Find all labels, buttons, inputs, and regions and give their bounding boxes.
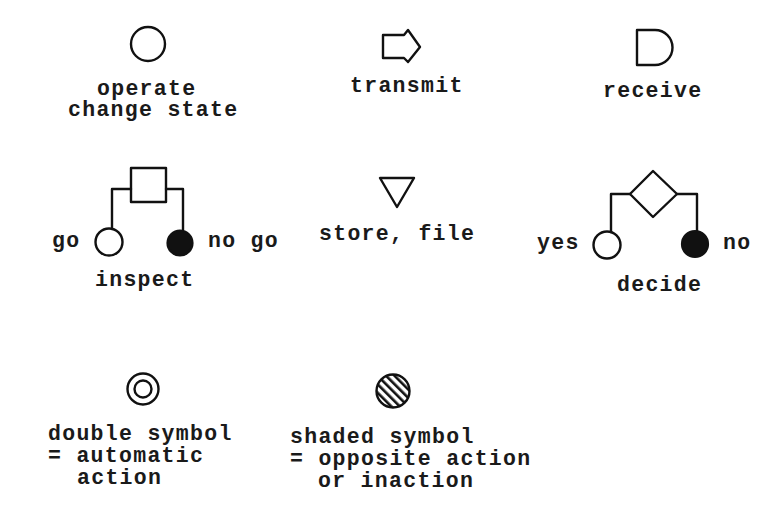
hatched-circle-icon <box>377 375 410 408</box>
decide-label: decide <box>617 273 702 297</box>
automatic-label: = automatic <box>48 444 204 468</box>
square-icon <box>131 168 166 202</box>
double-circle-outer-icon <box>128 374 159 405</box>
decide-symbol-group: yes no decide <box>537 171 751 297</box>
branch-line-left <box>112 189 131 229</box>
transmit-label: transmit <box>350 74 464 98</box>
change-state-label: change state <box>68 98 238 122</box>
shaded-symbol-label: shaded symbol <box>290 425 475 449</box>
no-go-label: no go <box>208 229 279 253</box>
receive-symbol-group: receive <box>603 30 702 103</box>
store-symbol-group: store, file <box>319 178 475 246</box>
double-circle-inner-icon <box>135 381 152 398</box>
operate-symbol-group: operate change state <box>68 27 238 122</box>
pentagon-arrow-icon <box>383 30 420 62</box>
shaded-symbol-group: shaded symbol = opposite action or inact… <box>290 375 531 494</box>
action-label: action <box>77 466 162 490</box>
d-shape-icon <box>637 30 673 65</box>
receive-label: receive <box>603 79 702 103</box>
open-circle-yes-icon <box>594 232 621 259</box>
inspect-symbol-group: go no go inspect <box>52 168 279 292</box>
go-label: go <box>52 229 80 253</box>
open-circle-go-icon <box>96 229 123 256</box>
yes-label: yes <box>537 231 580 255</box>
opposite-action-label: = opposite action <box>290 447 531 471</box>
inverted-triangle-icon <box>380 178 414 207</box>
double-symbol-label: double symbol <box>48 422 233 446</box>
branch-line-right <box>677 194 697 232</box>
branch-line-right <box>166 189 183 230</box>
open-circle-icon <box>131 27 165 61</box>
store-file-label: store, file <box>319 222 475 246</box>
diamond-icon <box>630 171 677 217</box>
double-symbol-group: double symbol = automatic action <box>48 374 233 491</box>
no-label: no <box>723 231 751 255</box>
inspect-label: inspect <box>95 268 194 292</box>
branch-line-left <box>611 194 630 232</box>
filled-circle-no-go-icon <box>168 231 193 256</box>
symbol-legend-diagram: operate change state transmit receive go… <box>0 0 783 527</box>
or-inaction-label: or inaction <box>318 469 474 493</box>
transmit-symbol-group: transmit <box>350 30 464 98</box>
filled-circle-no-icon <box>682 231 708 257</box>
